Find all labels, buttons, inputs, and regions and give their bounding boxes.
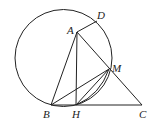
label-H: H bbox=[71, 108, 81, 120]
label-M: M bbox=[111, 62, 122, 74]
segment-AH bbox=[76, 32, 77, 105]
label-C: C bbox=[139, 108, 147, 120]
segment-HM bbox=[76, 69, 109, 105]
label-A: A bbox=[66, 24, 74, 36]
segment-AB bbox=[51, 32, 77, 105]
segment-BM bbox=[51, 69, 109, 105]
segment-AD bbox=[77, 21, 97, 32]
label-B: B bbox=[43, 108, 50, 120]
label-D: D bbox=[96, 9, 105, 21]
circle bbox=[15, 10, 112, 107]
geometry-diagram: A D M B H C bbox=[0, 0, 155, 137]
